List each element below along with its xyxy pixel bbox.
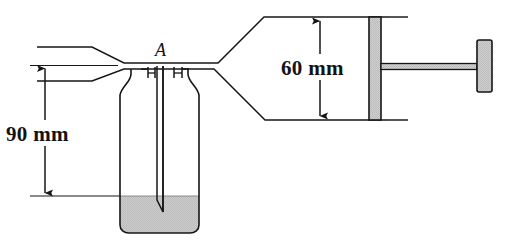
- piston: [369, 17, 381, 120]
- piston-rod: [381, 64, 477, 70]
- dimension-90mm-label: 90 mm: [6, 122, 69, 146]
- piston-handle: [477, 40, 492, 92]
- venturi-atomizer-diagram: 90 mm: [0, 0, 523, 242]
- dimension-90mm: 90 mm: [3, 69, 87, 194]
- dip-tube: [157, 66, 163, 212]
- bottle: [115, 69, 207, 238]
- point-label-a: A: [154, 40, 167, 60]
- bottle-neck-fitting: [141, 67, 189, 78]
- dimension-60mm: 60 mm: [278, 21, 364, 116]
- figure-root: 90 mm: [0, 0, 523, 242]
- bottle-liquid: [115, 196, 207, 238]
- dimension-60mm-label: 60 mm: [281, 56, 344, 80]
